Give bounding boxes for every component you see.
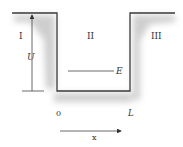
left-edge-label: 0 <box>56 109 61 118</box>
region-2-label: II <box>87 31 95 41</box>
axis-label: x <box>92 133 97 142</box>
potential-well-diagram: I II III U E 0 L x <box>0 0 183 147</box>
well-shading <box>14 15 175 102</box>
depth-label: U <box>27 52 35 62</box>
right-edge-label: L <box>127 108 134 118</box>
region-1-label: I <box>19 31 23 41</box>
region-3-label: III <box>151 31 162 41</box>
energy-label: E <box>115 66 123 76</box>
